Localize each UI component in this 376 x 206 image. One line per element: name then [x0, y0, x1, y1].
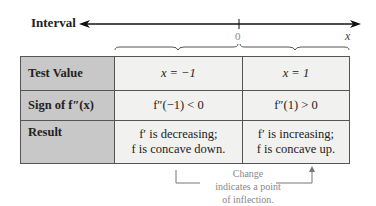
annotation-bracket-left — [176, 170, 200, 183]
table-row-result: Result f′ is decreasing; f is concave do… — [21, 121, 350, 164]
annotation-line: Change — [198, 167, 298, 180]
table-cell: f′ is decreasing; f is concave down. — [115, 121, 243, 164]
table-row-sign: Sign of f″(x) f″(−1) < 0 f″(1) > 0 — [21, 91, 350, 121]
table-cell: f′ is increasing; f is concave up. — [242, 121, 349, 164]
zero-tick-label: 0 — [235, 30, 241, 42]
up-arrow-icon — [309, 166, 315, 172]
annotation-line: indicates a point — [198, 180, 298, 193]
row-header: Result — [21, 121, 115, 164]
left-interval-brace — [115, 44, 238, 50]
inflection-annotation: Change indicates a point of inflection. — [198, 167, 298, 206]
table-cell: x = −1 — [115, 57, 243, 91]
cell-line: f′ is increasing; — [243, 127, 349, 142]
test-value-table: Test Value x = −1 x = 1 Sign of f″(x) f″… — [20, 56, 350, 164]
annotation-line: of inflection. — [198, 193, 298, 206]
table-cell: f″(−1) < 0 — [115, 91, 243, 121]
table-cell: f″(1) > 0 — [242, 91, 349, 121]
cell-line: f is concave up. — [243, 142, 349, 157]
row-header: Test Value — [21, 57, 115, 91]
table-cell: x = 1 — [242, 57, 349, 91]
axis-variable-label: x — [345, 29, 350, 44]
row-header: Sign of f″(x) — [21, 91, 115, 121]
right-interval-brace — [240, 44, 349, 50]
cell-line: f is concave down. — [115, 142, 242, 157]
table-row-test-value: Test Value x = −1 x = 1 — [21, 57, 350, 91]
cell-line: f′ is decreasing; — [115, 127, 242, 142]
interval-label: Interval — [31, 15, 76, 31]
